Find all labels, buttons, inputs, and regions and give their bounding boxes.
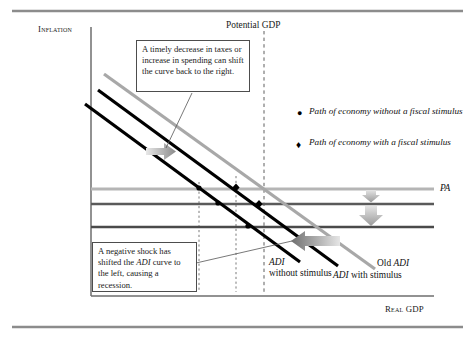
potential-gdp-label: Potential GDP bbox=[226, 20, 280, 31]
marker-circle-2 bbox=[215, 200, 220, 205]
old-adi-label-plain: Old bbox=[377, 258, 393, 268]
adi-without-stimulus-label-rest: without stimulus bbox=[269, 268, 332, 278]
adi-without-stimulus-label-italic: ADI bbox=[269, 257, 285, 267]
old-adi-label-italic: ADI bbox=[393, 258, 409, 268]
diamond-marker-icon: ♦ bbox=[296, 140, 301, 150]
pa-down-arrow-large bbox=[359, 206, 383, 226]
adi-with-stimulus-label-italic: ADI bbox=[333, 270, 349, 280]
adi-with-stimulus-label: ADI with stimulus bbox=[333, 270, 402, 281]
adi-without-stimulus-label: ADIwithout stimulus bbox=[269, 257, 332, 280]
marker-circle-3 bbox=[245, 223, 250, 228]
circle-marker-icon: ● bbox=[297, 109, 302, 118]
legend-item-without-stimulus: Path of economy without a fiscal stimulu… bbox=[309, 106, 467, 118]
pa-curve-label: PA bbox=[440, 183, 450, 194]
old-adi-label: Old ADI bbox=[377, 258, 409, 269]
y-axis-label: Inflation bbox=[38, 24, 72, 34]
economics-diagram: Inflation Real GDP Potential GDP A timel… bbox=[0, 0, 475, 342]
negative-shock-text-italic: ADI bbox=[136, 257, 150, 267]
adi-with-stimulus-label-rest: with stimulus bbox=[349, 270, 402, 280]
negative-shock-callout: A negative shock has shifted the ADI cur… bbox=[92, 242, 197, 292]
x-axis-label: Real GDP bbox=[385, 304, 424, 314]
pa-down-arrow-small bbox=[362, 190, 380, 203]
fiscal-stimulus-callout: A timely decrease in taxes or increase i… bbox=[136, 40, 250, 92]
legend-item-with-stimulus: Path of economy with a fiscal stimulus bbox=[309, 137, 467, 149]
adi-without-stimulus-curve bbox=[85, 104, 300, 262]
marker-circle-1 bbox=[196, 185, 201, 190]
